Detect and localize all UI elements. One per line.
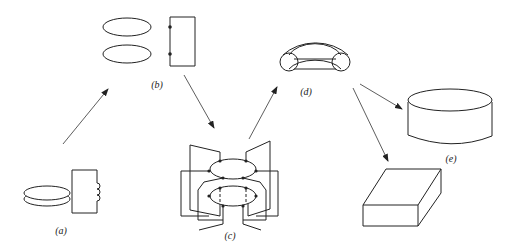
label-d: (d) xyxy=(300,86,312,98)
arrow-a-to-b xyxy=(63,89,108,144)
figure-a-discs-coil xyxy=(24,170,100,213)
figure-d-half-toroid xyxy=(280,43,350,71)
label-b: (b) xyxy=(151,79,163,91)
arrow-d-to-block xyxy=(353,88,388,161)
arrow-d-to-e xyxy=(360,84,402,109)
label-e: (e) xyxy=(445,153,457,165)
diagram-canvas: (a) (b) (c) xyxy=(0,0,512,252)
label-a: (a) xyxy=(55,225,67,237)
figure-b-loops xyxy=(103,17,195,66)
figure-c-winding xyxy=(181,141,278,230)
label-c: (c) xyxy=(224,230,236,242)
figure-rectangular-block xyxy=(363,169,441,226)
arrow-c-to-d xyxy=(249,87,277,139)
figure-e-cylinder xyxy=(408,89,492,144)
arrows xyxy=(63,75,402,161)
arrow-b-to-c xyxy=(184,75,214,128)
